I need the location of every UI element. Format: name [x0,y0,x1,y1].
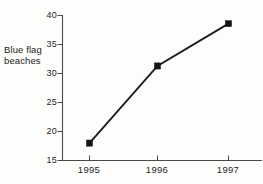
data-marker-group [86,21,231,147]
line-chart: Blue flag beaches 40 35 30 25 20 15 1995… [0,0,263,184]
plot-area [0,0,263,184]
data-point-marker [154,63,160,69]
data-series-line [90,24,229,143]
data-point-marker [86,140,92,146]
data-point-marker [225,21,231,27]
